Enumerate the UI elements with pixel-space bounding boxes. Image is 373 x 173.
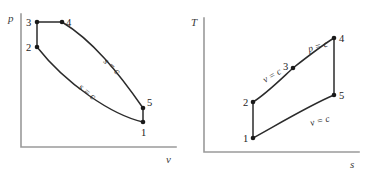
pv-state-dot-4 bbox=[60, 20, 65, 25]
ts-process-label-isochoric-rejection: v = c bbox=[309, 113, 331, 128]
ts-state-label-5: 5 bbox=[339, 90, 344, 101]
pv-process-4-5 bbox=[62, 22, 143, 108]
pv-process-label-isentropic-expansion: s = c bbox=[102, 56, 123, 77]
pv-axis-lines bbox=[21, 14, 176, 147]
ts-state-dot-1 bbox=[251, 136, 256, 141]
pressure-volume-diagram: p v 1 2 3 4 5 s = bbox=[0, 0, 186, 173]
ts-state-label-2: 2 bbox=[243, 97, 248, 108]
ts-state-label-3: 3 bbox=[283, 61, 288, 72]
temperature-entropy-diagram: T s 1 2 3 4 5 p = bbox=[186, 0, 373, 173]
ts-y-axis-label: T bbox=[191, 16, 198, 28]
ts-state-dot-5 bbox=[332, 93, 337, 98]
figure-canvas: p v 1 2 3 4 5 s = bbox=[0, 0, 373, 173]
pv-state-dot-2 bbox=[35, 45, 40, 50]
pv-state-dot-5 bbox=[141, 106, 146, 111]
pv-state-label-1: 1 bbox=[141, 127, 146, 138]
pv-svg: p v 1 2 3 4 5 s = bbox=[0, 0, 186, 173]
ts-process-label-isobaric: p = c bbox=[306, 39, 330, 55]
ts-state-label-4: 4 bbox=[339, 33, 345, 44]
pv-state-label-4: 4 bbox=[66, 17, 72, 28]
pv-x-axis-label: v bbox=[166, 153, 171, 165]
pv-state-dot-1 bbox=[141, 120, 146, 125]
pv-state-dot-3 bbox=[35, 20, 40, 25]
pv-state-label-3: 3 bbox=[26, 17, 31, 28]
pv-state-label-5: 5 bbox=[147, 97, 152, 108]
ts-state-dot-3 bbox=[291, 66, 296, 71]
ts-process-label-isochoric-addition: v = c bbox=[261, 66, 284, 85]
ts-state-dot-4 bbox=[332, 36, 337, 41]
pv-y-axis-label: p bbox=[7, 12, 14, 24]
ts-state-label-1: 1 bbox=[243, 133, 248, 144]
pv-process-1-2 bbox=[37, 47, 143, 122]
ts-state-dot-2 bbox=[251, 100, 256, 105]
pv-state-label-2: 2 bbox=[26, 42, 31, 53]
ts-svg: T s 1 2 3 4 5 p = bbox=[186, 0, 373, 173]
ts-x-axis-label: s bbox=[350, 158, 354, 170]
